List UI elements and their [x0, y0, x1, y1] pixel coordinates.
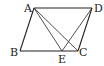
segment-ae	[34, 8, 62, 51]
label-e: E	[58, 53, 66, 66]
label-b: B	[10, 46, 18, 59]
label-a: A	[23, 2, 33, 15]
label-c: C	[79, 46, 87, 59]
segment-ac	[34, 8, 78, 51]
segment-cd	[78, 8, 92, 51]
parallelogram-diagram: A D B C E	[0, 0, 104, 66]
label-d: D	[94, 2, 103, 15]
segment-de	[62, 8, 92, 51]
